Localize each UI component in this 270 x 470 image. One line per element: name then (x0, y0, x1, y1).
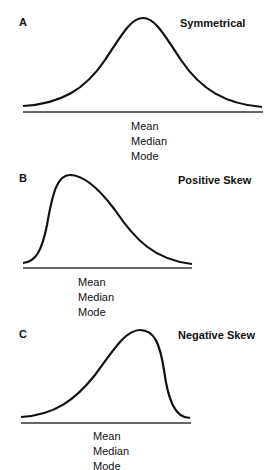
mode-label: Mode (93, 459, 129, 470)
panel-c-labels: Mean Median Mode (93, 429, 129, 470)
distribution-curves (0, 0, 270, 470)
mean-label: Mean (93, 429, 129, 444)
panel-c-letter: C (19, 328, 27, 340)
panel-b-letter: B (19, 172, 27, 184)
panel-b-labels: Mean Median Mode (78, 275, 114, 320)
median-label: Median (78, 290, 114, 305)
panel-a-title: Symmetrical (180, 17, 245, 29)
mean-label: Mean (78, 275, 114, 290)
median-label: Median (131, 134, 167, 149)
panel-a-curve (23, 18, 263, 112)
panel-a-letter: A (19, 16, 27, 28)
mode-label: Mode (131, 149, 167, 164)
panel-c-title: Negative Skew (178, 329, 255, 341)
panel-b-title: Positive Skew (178, 174, 251, 186)
median-label: Median (93, 444, 129, 459)
mode-label: Mode (78, 305, 114, 320)
mean-label: Mean (131, 119, 167, 134)
panel-a-labels: Mean Median Mode (131, 119, 167, 164)
panel-c-curve (21, 330, 191, 423)
panel-b-curve (23, 175, 192, 268)
